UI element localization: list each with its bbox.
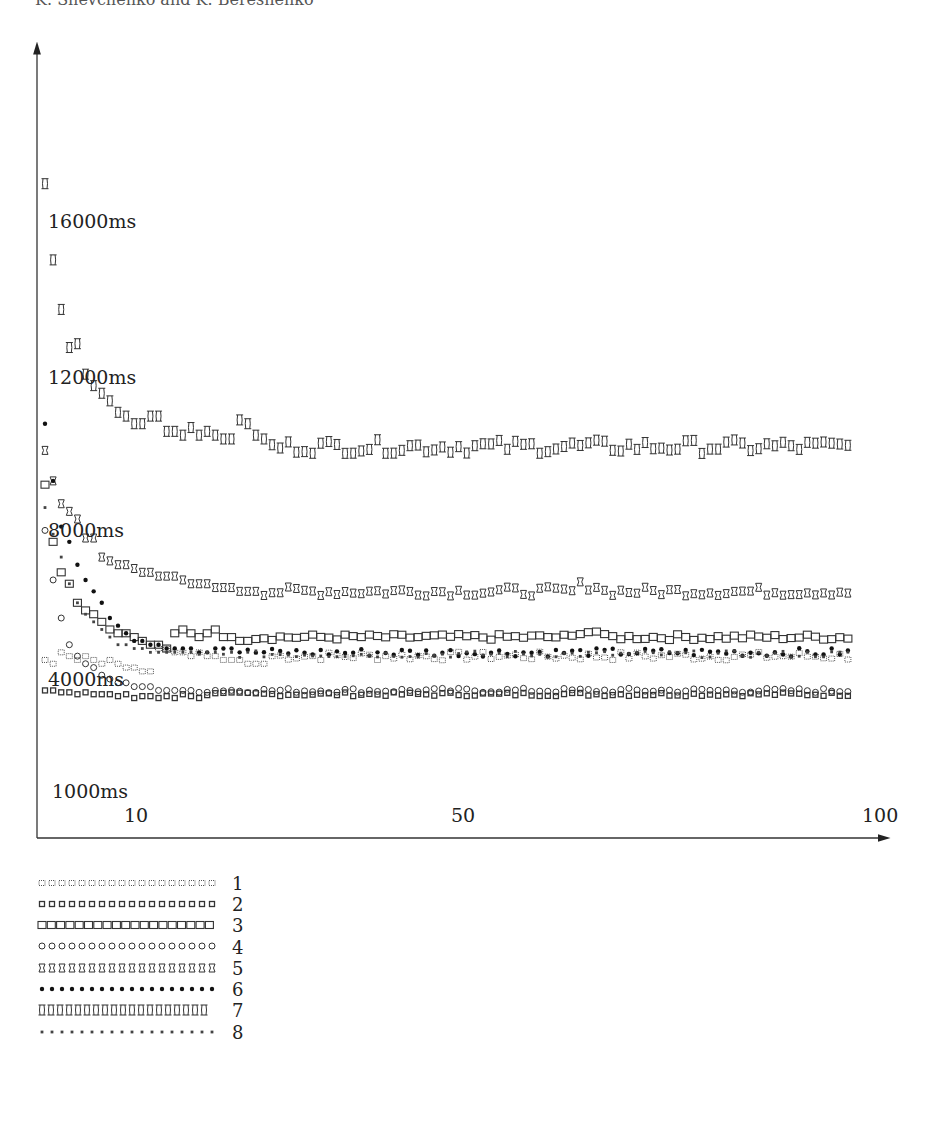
y-tick-label-4000: 4000ms xyxy=(48,668,124,690)
legend-label-3: 3 xyxy=(232,915,243,936)
scatter-plot xyxy=(0,0,938,1131)
y-tick-label-1000: 1000ms xyxy=(52,780,128,802)
y-tick-label-8000: 8000ms xyxy=(48,519,124,541)
x-tick-label-10: 10 xyxy=(124,804,148,826)
legend-label-2: 2 xyxy=(232,894,243,915)
legend-label-5: 5 xyxy=(232,958,243,979)
legend-swatches xyxy=(38,881,215,1034)
legend-label-1: 1 xyxy=(232,873,243,894)
legend-label-4: 4 xyxy=(232,937,243,958)
x-tick-label-50: 50 xyxy=(451,804,475,826)
legend-label-8: 8 xyxy=(232,1022,243,1043)
y-tick-label-16000: 16000ms xyxy=(48,210,136,232)
y-tick-label-12000: 12000ms xyxy=(48,366,136,388)
data-points xyxy=(41,179,852,701)
x-tick-label-100: 100 xyxy=(862,804,898,826)
legend-label-7: 7 xyxy=(232,1000,243,1021)
legend-label-6: 6 xyxy=(232,979,243,1000)
